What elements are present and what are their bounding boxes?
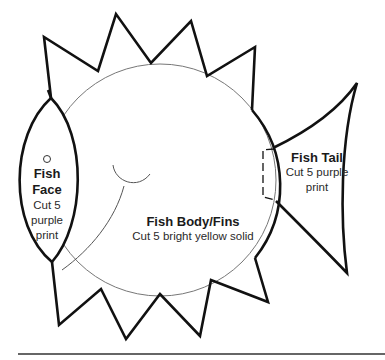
body-instruction: Cut 5 bright yellow solid — [118, 229, 268, 244]
body-title: Fish Body/Fins — [118, 214, 268, 229]
tail-instruction-line-1: Cut 5 purple — [277, 165, 357, 180]
body-label: Fish Body/Fins Cut 5 bright yellow solid — [118, 214, 268, 244]
face-title-line-1: Fish — [22, 166, 72, 182]
tail-label: Fish Tail Cut 5 purple print — [277, 150, 357, 195]
tail-instruction-line-2: print — [277, 180, 357, 195]
face-title-line-2: Face — [22, 182, 72, 198]
horizontal-rule — [18, 353, 385, 355]
face-instruction-line-3: print — [22, 228, 72, 243]
face-label: Fish Face Cut 5 purple print — [22, 166, 72, 243]
face-instruction-line-2: purple — [22, 213, 72, 228]
mouth-arc — [113, 165, 150, 183]
bottom-fins — [52, 258, 268, 339]
face-instruction-line-1: Cut 5 — [22, 198, 72, 213]
tail-title: Fish Tail — [277, 150, 357, 165]
top-fins — [44, 14, 255, 110]
